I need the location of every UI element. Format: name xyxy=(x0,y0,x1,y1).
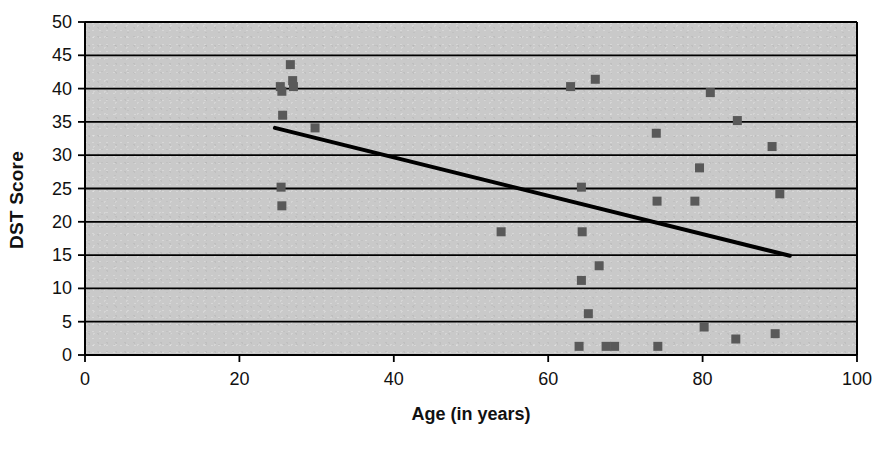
data-point xyxy=(706,88,715,97)
data-point xyxy=(497,227,506,236)
data-point xyxy=(610,342,619,351)
y-tick-labels-group: 05101520253035404550 xyxy=(52,12,72,365)
data-point xyxy=(700,323,709,332)
data-point xyxy=(289,82,298,91)
y-tick-marks-group xyxy=(78,22,85,355)
data-point xyxy=(578,227,587,236)
data-point xyxy=(653,197,662,206)
data-point xyxy=(286,60,295,69)
data-point xyxy=(775,189,784,198)
x-tick-label-80: 80 xyxy=(693,369,713,389)
scatter-chart-figure: DST Score Age (in years) 051015202530354… xyxy=(0,0,889,453)
data-point xyxy=(311,123,320,132)
data-point xyxy=(768,142,777,151)
data-point xyxy=(733,116,742,125)
data-point xyxy=(653,342,662,351)
data-point xyxy=(277,201,286,210)
y-tick-label-15: 15 xyxy=(52,245,72,265)
x-tick-label-0: 0 xyxy=(80,369,90,389)
x-tick-label-40: 40 xyxy=(384,369,404,389)
y-tick-label-20: 20 xyxy=(52,212,72,232)
data-point xyxy=(771,329,780,338)
data-point xyxy=(595,261,604,270)
y-tick-label-35: 35 xyxy=(52,112,72,132)
data-point xyxy=(591,75,600,84)
y-tick-label-25: 25 xyxy=(52,179,72,199)
y-tick-label-40: 40 xyxy=(52,79,72,99)
data-point xyxy=(652,129,661,138)
data-point xyxy=(690,197,699,206)
data-points-group xyxy=(276,60,784,351)
data-point xyxy=(731,335,740,344)
y-tick-label-50: 50 xyxy=(52,12,72,32)
data-point xyxy=(602,342,611,351)
y-tick-label-5: 5 xyxy=(62,312,72,332)
data-point xyxy=(577,183,586,192)
gridlines-group xyxy=(85,22,857,322)
y-tick-label-45: 45 xyxy=(52,45,72,65)
y-tick-label-30: 30 xyxy=(52,145,72,165)
y-tick-label-0: 0 xyxy=(62,345,72,365)
x-tick-label-20: 20 xyxy=(229,369,249,389)
trend-line xyxy=(275,128,790,256)
y-tick-label-10: 10 xyxy=(52,278,72,298)
x-tick-label-100: 100 xyxy=(842,369,872,389)
data-point xyxy=(695,163,704,172)
data-point xyxy=(566,82,575,91)
x-tick-label-60: 60 xyxy=(538,369,558,389)
data-point xyxy=(277,183,286,192)
data-point xyxy=(575,342,584,351)
x-tick-labels-group: 020406080100 xyxy=(80,369,872,389)
x-tick-marks-group xyxy=(85,355,857,362)
data-point xyxy=(577,276,586,285)
chart-canvas: 05101520253035404550 020406080100 xyxy=(0,0,889,453)
data-point xyxy=(278,111,287,120)
data-point xyxy=(584,309,593,318)
data-point xyxy=(277,87,286,96)
